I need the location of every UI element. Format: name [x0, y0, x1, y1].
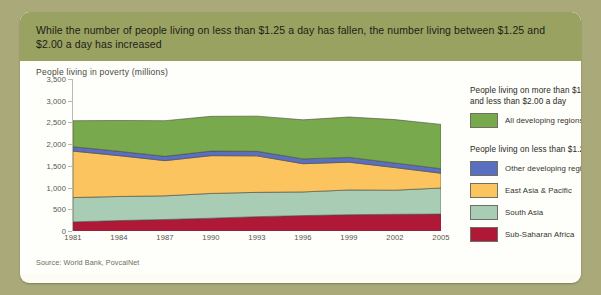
stacked-area-chart — [73, 79, 441, 231]
y-axis-tick — [68, 79, 72, 80]
y-axis-tick — [68, 188, 72, 189]
legend-swatch-icon — [470, 113, 498, 128]
x-axis-tick-label: 1987 — [156, 233, 173, 242]
x-axis-tick-label: 1990 — [202, 233, 219, 242]
x-axis-tick-label: 1981 — [64, 233, 81, 242]
legend-item-label: East Asia & Pacific — [505, 186, 572, 195]
legend-item-label: Other developing regions — [505, 164, 581, 173]
legend-group-above: People living on more than $1.25 a day, … — [470, 85, 581, 128]
y-axis-tick — [68, 101, 72, 102]
legend-item-all-developing-regions[interactable]: All developing regions — [470, 113, 581, 128]
legend-item-label: All developing regions — [505, 116, 581, 125]
x-axis-tick-label: 1993 — [248, 233, 265, 242]
x-axis-tick-label: 1996 — [294, 233, 311, 242]
legend-item-south-asia[interactable]: South Asia — [470, 205, 581, 220]
y-axis-tick — [68, 231, 72, 232]
legend-item-label: Sub-Saharan Africa — [505, 230, 574, 239]
legend-item-label: South Asia — [505, 208, 543, 217]
x-axis-tick-label: 2002 — [386, 233, 403, 242]
y-axis-tick-label: 1,000 — [46, 183, 66, 192]
header-caption: While the number of people living on les… — [36, 23, 567, 51]
x-axis-tick-label: 2005 — [432, 233, 449, 242]
legend-group-below: People living on less than $1.25 a day O… — [470, 144, 581, 242]
figure-card: While the number of people living on les… — [20, 12, 581, 283]
legend-swatch-icon — [470, 183, 498, 198]
legend-item-east-asia-pacific[interactable]: East Asia & Pacific — [470, 183, 581, 198]
y-axis-labels: 05001,0001,5002,0002,5003,0003,500 — [30, 79, 66, 231]
y-axis-tick — [68, 144, 72, 145]
y-axis-tick — [68, 166, 72, 167]
x-axis-tick-label: 1999 — [340, 233, 357, 242]
y-axis-tick-label: 1,500 — [46, 161, 66, 170]
legend-item-sub-saharan-africa[interactable]: Sub-Saharan Africa — [470, 227, 581, 242]
figure-body: People living in poverty (millions) 0500… — [20, 61, 581, 274]
x-axis-tick-label: 1984 — [110, 233, 127, 242]
y-axis-tick — [68, 209, 72, 210]
legend-swatch-icon — [470, 161, 498, 176]
legend-swatch-icon — [470, 227, 498, 242]
legend-heading: People living on less than $1.25 a day — [470, 144, 581, 155]
y-axis-tick-label: 2,500 — [46, 118, 66, 127]
y-axis-tick-label: 500 — [53, 205, 66, 214]
legend-item-other-developing-regions[interactable]: Other developing regions — [470, 161, 581, 176]
figure-header: While the number of people living on les… — [20, 12, 581, 61]
y-axis-tick — [68, 122, 72, 123]
chart-legend: People living on more than $1.25 a day, … — [470, 85, 581, 258]
y-axis-tick-label: 2,000 — [46, 140, 66, 149]
y-axis-tick-label: 3,000 — [46, 96, 66, 105]
y-axis-tick-label: 3,500 — [46, 75, 66, 84]
x-axis-labels: 198119841987199019931996199920022005 — [73, 233, 441, 247]
legend-heading: People living on more than $1.25 a day, … — [470, 85, 581, 107]
plot-area: 05001,0001,5002,0002,5003,0003,500 19811… — [30, 79, 450, 251]
legend-swatch-icon — [470, 205, 498, 220]
source-note: Source: World Bank, PovcalNet — [36, 258, 139, 267]
